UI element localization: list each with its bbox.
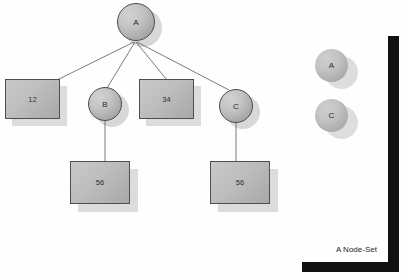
node-34[interactable]: 34 — [139, 79, 194, 119]
panel-border-vertical — [388, 36, 399, 262]
node-56-left-label: 56 — [71, 162, 129, 203]
panel-node-c[interactable]: C — [315, 99, 348, 132]
node-34-label: 34 — [140, 80, 193, 118]
panel-node-a[interactable]: A — [315, 49, 348, 82]
panel-caption: A Node-Set — [334, 244, 379, 255]
node-b[interactable]: B — [88, 87, 122, 121]
node-56-right[interactable]: 56 — [210, 161, 270, 204]
node-a[interactable]: A — [117, 3, 155, 41]
diagram-canvas: A 12 B 34 C 56 56 A C A Node-Set — [0, 0, 407, 279]
node-c[interactable]: C — [219, 89, 253, 123]
edge-a-to-12 — [57, 42, 134, 80]
edge-a-to-34 — [136, 42, 167, 80]
node-12-label: 12 — [6, 80, 59, 118]
node-12[interactable]: 12 — [5, 79, 60, 119]
node-b-label: B — [89, 88, 121, 120]
edge-a-to-b — [107, 42, 135, 88]
panel-node-c-label: C — [315, 99, 348, 132]
node-56-left[interactable]: 56 — [70, 161, 130, 204]
edge-layer — [0, 0, 407, 279]
node-c-label: C — [220, 90, 252, 122]
panel-node-a-label: A — [315, 49, 348, 82]
panel-border-horizontal — [302, 262, 399, 272]
node-a-label: A — [118, 4, 154, 40]
node-56-right-label: 56 — [211, 162, 269, 203]
